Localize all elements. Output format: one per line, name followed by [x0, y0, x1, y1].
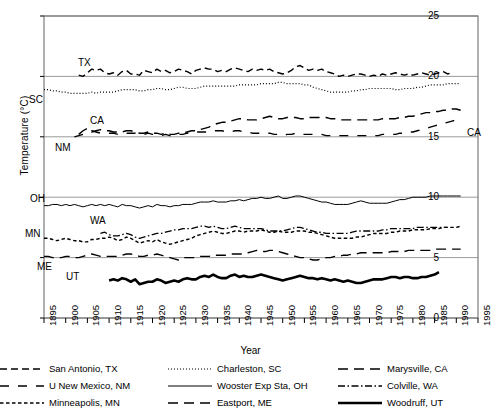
legend-item[interactable]: Marysville, CA — [338, 363, 501, 374]
x-tick-label: 1975 — [395, 305, 405, 326]
x-tick-label: 1965 — [352, 305, 362, 326]
y-tick-label: 20 — [413, 71, 439, 81]
legend-label: Minneapolis, MN — [49, 397, 120, 408]
legend-label: Woodruff, UT — [387, 397, 443, 408]
legend-item[interactable]: Wooster Exp Sta, OH — [168, 380, 338, 391]
legend-label: Colville, WA — [387, 380, 438, 391]
x-tick-label: 1970 — [374, 305, 384, 326]
series-annotation-ca: CA — [467, 128, 481, 138]
x-tick-label: 1925 — [178, 305, 188, 326]
x-tick-label: 1985 — [439, 305, 449, 326]
x-tick-label: 1935 — [222, 305, 232, 326]
x-tick-label: 1910 — [113, 305, 123, 326]
legend-item[interactable]: Eastport, ME — [168, 397, 338, 408]
legend-label: Eastport, ME — [217, 397, 272, 408]
legend-label: Charleston, SC — [217, 363, 281, 374]
series-annotation-ut: UT — [66, 272, 79, 282]
legend-label: U New Mexico, NM — [49, 380, 130, 391]
legend-item[interactable]: Colville, WA — [338, 380, 501, 391]
x-tick-label: 1990 — [460, 305, 470, 326]
legend-swatch-line — [168, 398, 212, 408]
series-annotation-oh: OH — [30, 194, 45, 204]
x-tick-label: 1980 — [417, 305, 427, 326]
legend-swatch-line — [168, 381, 212, 391]
x-tick-label: 1945 — [265, 305, 275, 326]
y-tick-label: 10 — [413, 192, 439, 202]
legend-swatch-line — [0, 398, 44, 408]
x-tick-label: 1915 — [135, 305, 145, 326]
legend-swatch-line — [168, 364, 212, 374]
y-tick-label: 5 — [413, 253, 439, 263]
series-annotation-wa: WA — [90, 216, 106, 226]
x-tick-label: 1960 — [330, 305, 340, 326]
x-tick-label: 1920 — [157, 305, 167, 326]
x-tick-label: 1995 — [482, 305, 492, 326]
legend-item[interactable]: U New Mexico, NM — [0, 380, 168, 391]
legend-swatch-line — [338, 398, 382, 408]
x-tick-label: 1955 — [308, 305, 318, 326]
legend-label: Marysville, CA — [387, 363, 448, 374]
legend-item[interactable]: Minneapolis, MN — [0, 397, 168, 408]
x-axis-title: Year — [0, 345, 501, 356]
x-tick-labels: 1895190019051910191519201925193019351940… — [0, 0, 501, 60]
x-tick-label: 1900 — [70, 305, 80, 326]
chart-legend: San Antonio, TXCharleston, SCMarysville,… — [0, 360, 501, 416]
legend-item[interactable]: Woodruff, UT — [338, 397, 501, 408]
x-tick-label: 1940 — [243, 305, 253, 326]
legend-item[interactable]: Charleston, SC — [168, 363, 338, 374]
series-annotation-ca: CA — [90, 116, 104, 126]
legend-label: Wooster Exp Sta, OH — [217, 380, 308, 391]
series-annotation-me: ME — [37, 262, 52, 272]
series-annotation-mn: MN — [25, 229, 41, 239]
chart-figure: Temperature (°C) 0510152025 189519001905… — [0, 0, 501, 416]
x-tick-label: 1950 — [287, 305, 297, 326]
legend-swatch-line — [338, 381, 382, 391]
legend-label: San Antonio, TX — [49, 363, 118, 374]
x-tick-label: 1895 — [48, 305, 58, 326]
series-annotation-tx: TX — [78, 58, 91, 68]
x-tick-label: 1930 — [200, 305, 210, 326]
series-annotation-nm: NM — [55, 143, 71, 153]
legend-swatch-line — [338, 364, 382, 374]
series-annotation-sc: SC — [29, 95, 43, 105]
y-tick-label: 15 — [413, 132, 439, 142]
legend-swatch-line — [0, 364, 44, 374]
legend-item[interactable]: San Antonio, TX — [0, 363, 168, 374]
legend-swatch-line — [0, 381, 44, 391]
x-tick-label: 1905 — [91, 305, 101, 326]
